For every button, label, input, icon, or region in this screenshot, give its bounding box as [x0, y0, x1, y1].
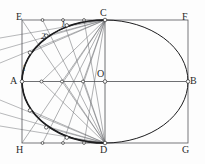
label-H: H: [16, 145, 23, 155]
label-D: D: [100, 145, 107, 155]
division-label-1-left: 1: [22, 65, 26, 73]
label-C: C: [100, 8, 107, 18]
figure-canvas: [0, 0, 205, 164]
label-B: B: [190, 76, 197, 86]
label-G: G: [182, 145, 189, 155]
label-A: A: [10, 76, 17, 86]
division-label-2: 2: [41, 33, 45, 41]
label-E: E: [16, 12, 22, 22]
label-F: F: [182, 12, 188, 22]
label-O: O: [97, 69, 104, 79]
ellipse-construction-figure: E F H G A B C D O 1 2 1: [0, 0, 205, 164]
division-label-1-top: 1: [61, 21, 65, 29]
